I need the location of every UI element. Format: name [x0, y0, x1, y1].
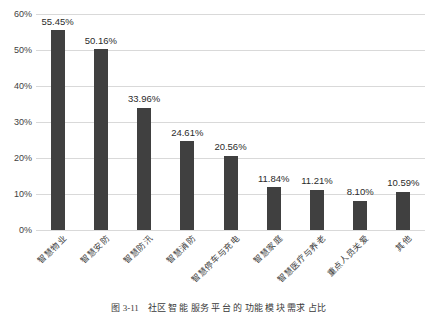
x-axis-category-label: 智慧防汛	[123, 234, 154, 265]
y-axis-tick-label: 0%	[2, 226, 32, 235]
bar	[51, 30, 65, 230]
y-axis-tick-label: 10%	[2, 190, 32, 199]
x-axis: 智慧物业智慧安防智慧防汛智慧消防智慧停车与充电智慧家庭智慧医疗与养老重点人员关爱…	[36, 232, 425, 298]
bar-value-label: 24.61%	[171, 128, 203, 138]
y-axis-tick-label: 50%	[2, 46, 32, 55]
bar	[267, 187, 281, 230]
gridline	[36, 14, 425, 15]
bar-value-label: 11.21%	[301, 176, 333, 186]
x-axis-category-label: 智慧安防	[79, 234, 110, 265]
bar-value-label: 20.56%	[214, 142, 246, 152]
y-axis-tick-label: 40%	[2, 82, 32, 91]
bar	[94, 49, 108, 230]
x-axis-category-label: 智慧医疗与养老	[276, 234, 327, 285]
bar	[310, 190, 324, 230]
x-axis-category-label: 智慧停车与充电	[190, 234, 241, 285]
bar-value-label: 10.59%	[387, 178, 419, 188]
x-axis-category-label: 重点人员关爱	[326, 234, 370, 278]
bar	[224, 156, 238, 230]
figure-caption: 图 3-11 社区 智 能 服务 平 台 的 功能 模 块 需求 占比	[0, 301, 437, 312]
bar-value-label: 55.45%	[41, 17, 73, 27]
y-axis-tick-label: 60%	[2, 10, 32, 19]
bar-value-label: 50.16%	[85, 36, 117, 46]
x-axis-category-label: 其他	[395, 234, 414, 253]
bar	[137, 108, 151, 230]
x-axis-category-label: 智慧家庭	[252, 234, 283, 265]
y-axis-tick-label: 20%	[2, 154, 32, 163]
bar	[353, 201, 367, 230]
bar	[396, 192, 410, 230]
x-axis-category-label: 智慧物业	[36, 234, 67, 265]
bar-value-label: 8.10%	[347, 187, 374, 197]
plot-area: 55.45%50.16%33.96%24.61%20.56%11.84%11.2…	[36, 14, 425, 230]
y-axis-tick-label: 30%	[2, 118, 32, 127]
y-axis: 0%10%20%30%40%50%60%	[0, 14, 32, 230]
gridline	[36, 230, 425, 231]
x-axis-category-label: 智慧消防	[166, 234, 197, 265]
chart-screenshot: 0%10%20%30%40%50%60% 55.45%50.16%33.96%2…	[0, 0, 437, 312]
bar-value-label: 11.84%	[258, 174, 290, 184]
bar	[180, 141, 194, 230]
bar-value-label: 33.96%	[128, 94, 160, 104]
